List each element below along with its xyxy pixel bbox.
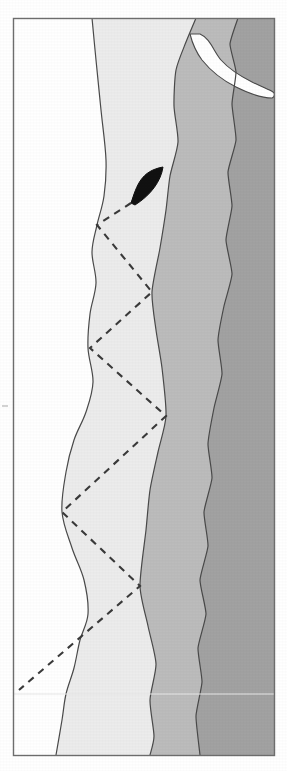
map-figure — [0, 0, 287, 771]
map-canvas — [0, 0, 287, 771]
